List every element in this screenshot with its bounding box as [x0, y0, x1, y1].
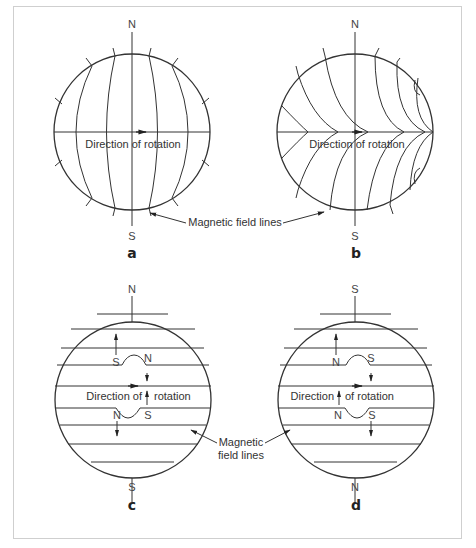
- pole-label-bottom-c: S: [128, 481, 135, 493]
- callout-label-top: Magnetic field lines: [188, 216, 282, 228]
- panel-c: S N N S Direction of rotation N S c: [55, 283, 211, 513]
- pole-label-bottom-a: S: [128, 230, 135, 242]
- panel-d: N S N S Direction of rotation S N d: [278, 283, 434, 513]
- rotation-label-a: Direction of rotation: [85, 138, 180, 150]
- callout-field-lines-top: Magnetic field lines: [150, 212, 324, 228]
- pole-label-top-b: N: [351, 18, 359, 30]
- panel-letter-d: d: [351, 497, 361, 513]
- rotation-label-b: Direction of rotation: [309, 138, 404, 150]
- callout-field-lines-bottom: Magnetic field lines: [191, 430, 290, 461]
- panel-letter-b: b: [351, 245, 361, 261]
- rotation-label-right-c: rotation: [154, 390, 191, 402]
- pole-label-top-c: N: [128, 283, 136, 295]
- panel-b: N S Direction of rotation b: [277, 18, 433, 261]
- panel-a: N S Direction of rotation a: [54, 18, 210, 261]
- bipole-lower-left-d: N: [334, 409, 342, 421]
- bipole-upper-right-c: N: [144, 352, 152, 364]
- bipole-upper-left-c: S: [112, 356, 119, 368]
- field-line: [367, 56, 404, 210]
- pole-label-bottom-b: S: [351, 230, 358, 242]
- magnetic-field-diagram: N S Direction of rotation a N S Directi: [0, 0, 476, 548]
- bipole-upper-left-d: N: [332, 356, 340, 368]
- field-line: [390, 62, 425, 205]
- rotation-label-left-c: Direction of: [86, 390, 143, 402]
- callout-label-bottom-1: Magnetic: [219, 436, 264, 448]
- pole-label-top-d: S: [351, 283, 358, 295]
- bipole-lower-right-c: S: [144, 409, 151, 421]
- rotation-label-left-d: Direction: [291, 390, 334, 402]
- callout-label-bottom-2: field lines: [218, 449, 264, 461]
- bipole-lower-right-d: S: [368, 409, 375, 421]
- pole-label-top-a: N: [128, 18, 136, 30]
- panel-letter-c: c: [128, 497, 136, 513]
- bipole-upper-right-d: S: [367, 352, 374, 364]
- field-line: [325, 56, 368, 210]
- field-line-ticks: [296, 48, 400, 214]
- toroidal-field-lines-c: [55, 314, 211, 462]
- rotation-label-right-d: of rotation: [345, 390, 394, 402]
- toroidal-field-lines-d: [278, 314, 434, 462]
- bipole-lower-left-c: N: [113, 409, 121, 421]
- panel-letter-a: a: [127, 245, 136, 261]
- pole-label-bottom-d: N: [351, 481, 359, 493]
